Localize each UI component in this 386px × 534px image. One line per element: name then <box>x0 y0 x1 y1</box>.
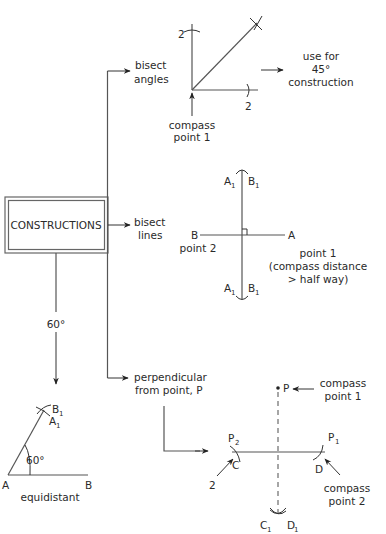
perp-label-2: from point, P <box>135 384 203 396</box>
note-line-3: construction <box>288 76 353 88</box>
p2-label: P <box>228 432 234 444</box>
compass-label-2: point 1 <box>174 131 211 143</box>
arc-label-right: 2 <box>245 100 252 112</box>
c-label: C <box>232 459 239 471</box>
bisect-angles-branch: bisect angles 2 2 compass point 1 use fo… <box>134 16 354 143</box>
point-p-label: P <box>283 382 289 394</box>
sixty-angle-label: 60° <box>26 454 45 466</box>
central-title: CONSTRUCTIONS <box>10 219 101 231</box>
note-line-1: use for <box>303 50 340 62</box>
compass2-label-1: compass <box>324 482 370 494</box>
compass1-label-1: compass <box>320 377 366 389</box>
note-line-2: 45° <box>312 63 331 75</box>
bisect-lines-branch: bisect lines A 1 B 1 A 1 B 1 B A point 2… <box>134 170 367 300</box>
sub: 1 <box>231 182 235 190</box>
perp-label-1: perpendicular <box>134 371 208 383</box>
sixty-degree-branch: 60° B 1 A 1 A B equidistant <box>2 403 92 503</box>
compass2-label-2: point 2 <box>329 495 366 507</box>
vertex-a-label: A <box>2 479 10 491</box>
sub: 1 <box>255 289 259 297</box>
sub: 1 <box>294 526 298 534</box>
sub: 1 <box>59 410 63 418</box>
bisect-lines-label-2: lines <box>138 229 162 241</box>
point1-label-2: (compass distance <box>269 260 367 272</box>
equidistant-caption: equidistant <box>20 491 79 503</box>
sub: 1 <box>231 289 235 297</box>
point-b-label: B <box>191 229 198 241</box>
point1-label-1: point 1 <box>300 247 337 259</box>
p1-label: P <box>328 431 334 443</box>
arc-label-top: 2 <box>178 28 185 40</box>
sub: 1 <box>335 438 339 446</box>
sub: 1 <box>255 182 259 190</box>
constructions-diagram: CONSTRUCTIONS 60° bisect angles 2 2 comp… <box>0 0 386 534</box>
point1-label-3: > half way) <box>288 273 349 285</box>
compass1-label-2: point 1 <box>325 390 362 402</box>
vertex-b-label: B <box>85 479 92 491</box>
point-a-label: A <box>288 229 296 241</box>
sub: 2 <box>235 439 239 447</box>
point2-label: point 2 <box>180 242 217 254</box>
perpendicular-branch: perpendicular from point, P P compass po… <box>134 371 370 534</box>
sub: 1 <box>267 526 271 534</box>
bisect-lines-label-1: bisect <box>134 216 165 228</box>
d-label: D <box>315 463 323 475</box>
two-label: 2 <box>209 479 216 491</box>
central-node: CONSTRUCTIONS <box>5 197 108 253</box>
bisect-angles-label-1: bisect <box>135 59 166 71</box>
bisect-angles-label-2: angles <box>134 73 169 85</box>
sixty-branch-label: 60° <box>47 318 66 330</box>
compass-label-1: compass <box>169 119 215 131</box>
sub: 1 <box>56 422 60 430</box>
